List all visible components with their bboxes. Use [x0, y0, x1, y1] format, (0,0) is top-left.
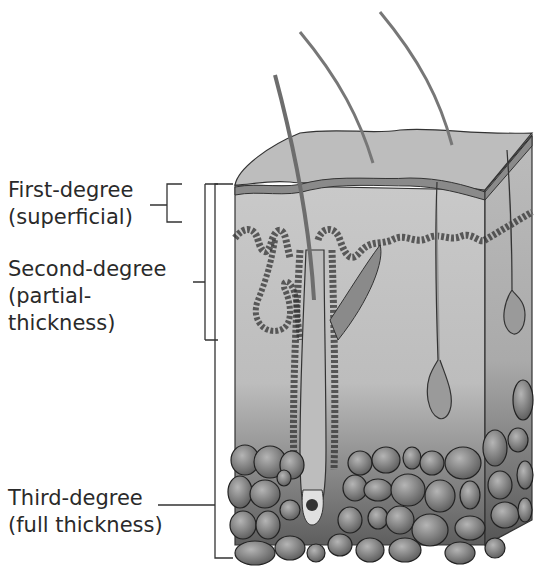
hair-shaft-3	[380, 12, 452, 145]
skin-cross-section-diagram	[0, 0, 548, 573]
first-degree-bracket	[150, 184, 182, 222]
dermal-papilla	[306, 499, 318, 511]
third-degree-bracket	[158, 184, 233, 558]
second-degree-bracket	[193, 184, 218, 340]
